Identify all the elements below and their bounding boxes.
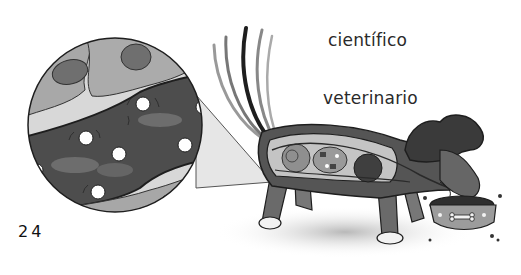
magnifier-circle bbox=[20, 30, 220, 230]
illustrated-book-page: científico veterinario 24 bbox=[0, 0, 521, 275]
illustration bbox=[0, 0, 521, 275]
label-veterinario: veterinario bbox=[323, 88, 418, 108]
tail-motion-lines bbox=[214, 28, 278, 142]
label-cientifico: científico bbox=[328, 30, 407, 50]
page-number: 24 bbox=[18, 222, 44, 241]
